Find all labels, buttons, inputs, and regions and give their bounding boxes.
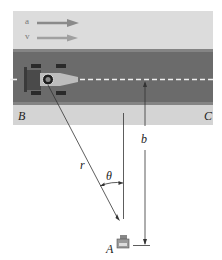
race-car-tracking-diagram: a v B C r θ b A bbox=[0, 0, 222, 260]
top-shoulder bbox=[13, 11, 213, 49]
diagram-canvas bbox=[0, 0, 222, 260]
camera-icon bbox=[117, 235, 129, 248]
velocity-label: v bbox=[25, 32, 30, 41]
point-b-label: B bbox=[18, 110, 25, 122]
angle-theta-label: θ bbox=[106, 170, 112, 182]
distance-b-label: b bbox=[141, 133, 147, 145]
distance-r-label: r bbox=[80, 159, 85, 171]
point-c-label: C bbox=[204, 110, 212, 122]
acceleration-label: a bbox=[25, 17, 29, 26]
point-a-label: A bbox=[106, 243, 113, 255]
bottom-shoulder bbox=[13, 105, 213, 125]
